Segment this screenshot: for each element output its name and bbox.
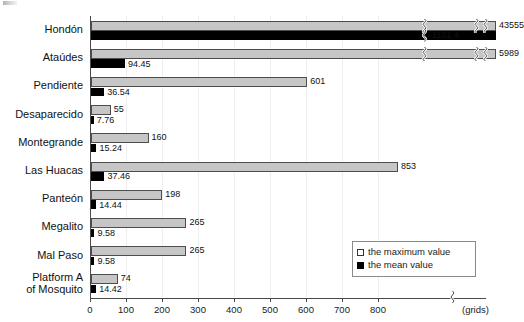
x-axis-tick-label: 700 (334, 304, 350, 315)
bar-value-label-maximum: 198 (165, 190, 180, 199)
bar-value-label-maximum: 601 (310, 77, 325, 86)
x-axis-tick (342, 298, 343, 302)
x-axis-tick (198, 298, 199, 302)
bar-value-label-maximum: 43555 (499, 21, 524, 30)
bar-row: Desaparecido557.76 (90, 101, 438, 129)
bar-value-label-maximum: 265 (189, 246, 204, 255)
bar-value-label-maximum: 55 (114, 105, 124, 114)
legend-item-maximum: the maximum value (357, 246, 471, 258)
bar-value-label-mean: 37.46 (107, 172, 130, 181)
x-axis-tick-label: 100 (118, 304, 134, 315)
bar-mean-value (91, 229, 94, 237)
x-axis-tick (126, 298, 127, 302)
chart-legend: the maximum value the mean value (352, 241, 476, 277)
x-axis-tick-label: 500 (262, 304, 278, 315)
bar-value-label-maximum: 5989 (499, 49, 519, 58)
bar-row: Pendiente60136.54 (90, 72, 438, 100)
bar-value-label-maximum: 265 (189, 218, 204, 227)
x-axis-tick-label: 0 (87, 304, 92, 315)
legend-swatch-mean-icon (357, 262, 364, 269)
bar-value-label-mean: 1101.4 (432, 31, 459, 40)
bar-row: Montegrande16015.24 (90, 129, 438, 157)
x-axis-tick-label: 400 (226, 304, 242, 315)
bar-value-label-mean: 94.45 (128, 60, 151, 69)
bar-value-label-mean: 15.24 (99, 144, 122, 153)
bar-maximum-value (91, 21, 496, 31)
bar-row: Las Huacas85337.46 (90, 157, 438, 185)
bar-maximum-value (91, 190, 162, 200)
x-axis-tick (270, 298, 271, 302)
bar-value-label-mean: 9.58 (97, 257, 115, 266)
bar-mean-value (91, 172, 104, 180)
bar-maximum-value (91, 49, 496, 59)
category-label: Las Huacas (0, 164, 83, 176)
legend-label-maximum: the maximum value (368, 246, 450, 258)
category-label: Desaparecido (0, 108, 83, 120)
bar-mean-value (91, 88, 104, 96)
bar-value-label-maximum: 160 (152, 133, 167, 142)
bar-row: Panteón19814.44 (90, 185, 438, 213)
bar-value-label-mean: 14.44 (99, 201, 122, 210)
bar-row: Megalito2659.58 (90, 213, 438, 241)
category-label: Ataúdes (0, 51, 83, 63)
category-label: Pendiente (0, 79, 83, 91)
category-label: Megalito (0, 220, 83, 232)
bar-value-label-mean: 14.42 (99, 285, 122, 294)
bar-value-label-mean: 36.54 (107, 88, 130, 97)
category-label: Montegrande (0, 136, 83, 148)
x-axis-tick (378, 298, 379, 302)
bar-mean-value (91, 200, 96, 208)
x-axis-tick (306, 298, 307, 302)
x-axis-tick-label: 300 (190, 304, 206, 315)
bar-row: Hondón435551101.4 (90, 16, 438, 44)
x-axis-units-label: (grids) (462, 304, 489, 315)
bar-maximum-value (91, 246, 186, 256)
bar-value-label-maximum: 74 (121, 274, 131, 283)
bar-mean-value (91, 59, 125, 67)
bar-mean-value (91, 144, 96, 152)
bar-maximum-value (91, 133, 149, 143)
legend-item-mean: the mean value (357, 259, 471, 271)
x-axis-break-icon (448, 291, 457, 303)
x-axis-tick-label: 200 (154, 304, 170, 315)
bar-maximum-value (91, 162, 398, 172)
bar-maximum-value (91, 274, 118, 284)
bar-maximum-value (91, 218, 186, 228)
legend-label-mean: the mean value (368, 259, 433, 271)
x-axis-tick-label: 800 (370, 304, 386, 315)
bar-mean-value (91, 116, 94, 124)
x-axis-tick (162, 298, 163, 302)
bar-value-label-mean: 9.58 (97, 229, 115, 238)
x-axis-tick (90, 298, 91, 302)
bar-mean-value (91, 285, 96, 293)
category-label: Platform A of Mosquito (0, 271, 83, 295)
bar-maximum-value (91, 77, 307, 87)
bar-maximum-value (91, 105, 111, 115)
x-axis-tick-label: 600 (298, 304, 314, 315)
x-axis-line (90, 298, 486, 299)
bar-row: Ataúdes598994.45 (90, 44, 438, 72)
legend-swatch-maximum-icon (357, 249, 364, 256)
bar-value-label-maximum: 853 (401, 162, 416, 171)
scan-artifact (3, 1, 17, 5)
bar-value-label-mean: 7.76 (97, 116, 115, 125)
x-axis-tick (234, 298, 235, 302)
category-label: Hondón (0, 23, 83, 35)
bar-mean-value (91, 257, 94, 265)
category-label: Panteón (0, 192, 83, 204)
category-label: Mal Paso (0, 249, 83, 261)
